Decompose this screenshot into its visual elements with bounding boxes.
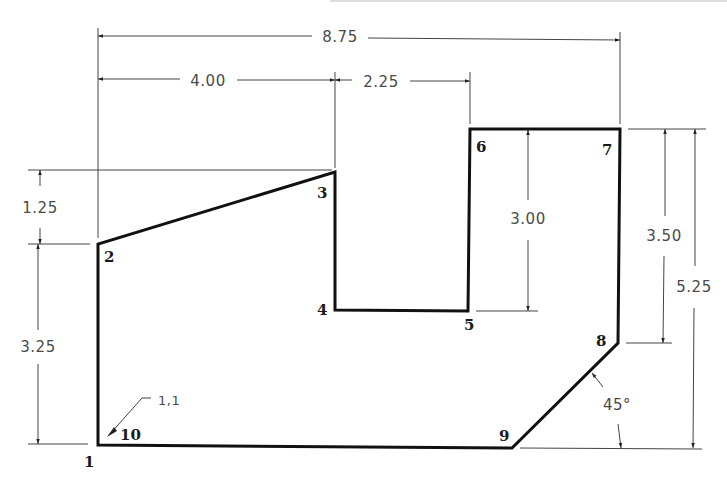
point-label-7: 7 [602, 141, 612, 159]
point-label-6: 6 [476, 138, 486, 156]
dim-label-5-25: 5.25 [676, 278, 711, 296]
point-label-4: 4 [317, 301, 327, 319]
point-label-3: 3 [317, 184, 327, 202]
dimension-rise-2-to-3: 1.25 [22, 170, 57, 244]
dimension-width-to-3: 4.00 [98, 72, 335, 90]
point-label-5: 5 [464, 316, 474, 334]
dim-label-1-25: 1.25 [22, 199, 57, 217]
coord-label-1-1: 1,1 [158, 393, 180, 408]
point-labels: 1 2 3 4 5 6 7 8 9 10 [84, 138, 612, 471]
point-label-1: 1 [84, 453, 94, 471]
point-label-2: 2 [104, 248, 114, 266]
dim-label-3-00: 3.00 [510, 210, 545, 228]
dimension-height-8-to-7: 3.50 [646, 129, 681, 343]
dimension-overall-height: 5.25 [676, 129, 711, 448]
dimension-height-1-to-2: 3.25 [20, 244, 55, 444]
point-label-9: 9 [499, 427, 509, 445]
dim-label-3-25: 3.25 [20, 338, 55, 356]
dim-label-45-deg: 45° [603, 396, 631, 414]
extension-lines [28, 28, 706, 449]
leader-start-coordinate: 1,1 [107, 393, 180, 437]
dim-label-2-25: 2.25 [363, 73, 398, 91]
dimension-overall-width: 8.75 [98, 28, 620, 46]
dim-label-8-75: 8.75 [322, 28, 357, 46]
dimension-width-3-to-6: 2.25 [335, 73, 470, 91]
point-label-10: 10 [120, 426, 141, 444]
dimension-notch-depth: 3.00 [510, 130, 545, 311]
point-label-8: 8 [596, 332, 606, 350]
technical-drawing: 8.75 4.00 2.25 1.25 3.25 3.00 3.50 [0, 0, 727, 486]
dimension-chamfer-angle: 45° [592, 373, 631, 448]
dim-label-4-00: 4.00 [190, 72, 225, 90]
dim-label-3-50: 3.50 [646, 227, 681, 245]
